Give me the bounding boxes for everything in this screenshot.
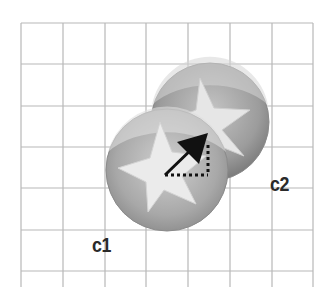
collision-diagram bbox=[0, 0, 334, 307]
label-c1: c1 bbox=[92, 233, 111, 257]
circle-c1 bbox=[106, 106, 228, 231]
label-c2: c2 bbox=[270, 172, 289, 196]
